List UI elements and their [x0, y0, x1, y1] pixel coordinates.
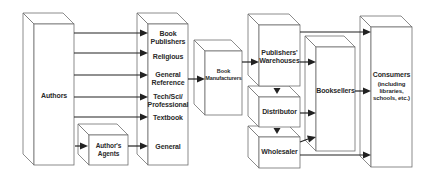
category-tech-line1: Tech/Sci/ [145, 93, 191, 101]
booksellers-label: Booksellers [316, 87, 355, 95]
authors-box [23, 13, 74, 165]
category-general-reference: General Reference [148, 71, 188, 87]
publishers-title: Book Publishers [148, 30, 188, 46]
category-religious-text: Religious [148, 53, 188, 61]
category-textbook: Textbook [148, 114, 188, 122]
manufacturers-line2: Manufacturers [203, 75, 244, 82]
publishers-title-line2: Publishers [148, 38, 188, 46]
authors-agents-line2: Agents [89, 150, 128, 158]
category-general-reference-line1: General [148, 71, 188, 79]
distributor-box [248, 86, 300, 127]
category-religious: Religious [148, 53, 188, 61]
consumers-title: Consumers [371, 71, 412, 79]
publishers-title-line1: Book [148, 30, 188, 38]
publishers-labels: Book Publishers Religious General Refere… [148, 0, 188, 180]
consumers-sub-line2: libraries, [371, 88, 412, 95]
category-general-reference-line2: Reference [148, 79, 188, 87]
category-tech-sci-professional: Tech/Sci/ Professional [145, 93, 191, 109]
wholesaler-box [248, 126, 300, 168]
authors-agents-label: Author's Agents [89, 142, 128, 157]
warehouses-label: Publishers' Warehouses [257, 49, 302, 65]
category-general: General [148, 143, 188, 151]
consumers-label: Consumers (including libraries, schools,… [371, 71, 412, 102]
consumers-sub-line1: (including [371, 81, 412, 88]
authors-agents-line1: Author's [89, 142, 128, 150]
consumers-sub-line3: schools, etc.) [371, 95, 412, 102]
category-tech-line2: Professional [145, 101, 191, 109]
distributor-label: Distributor [259, 108, 300, 116]
warehouses-line1: Publishers' [257, 49, 302, 57]
wholesaler-label: Wholesaler [259, 148, 300, 156]
authors-label: Authors [34, 92, 74, 100]
category-textbook-text: Textbook [148, 114, 188, 122]
warehouses-line2: Warehouses [257, 57, 302, 65]
category-general-text: General [148, 143, 188, 151]
manufacturers-label: Book Manufacturers [203, 68, 244, 81]
